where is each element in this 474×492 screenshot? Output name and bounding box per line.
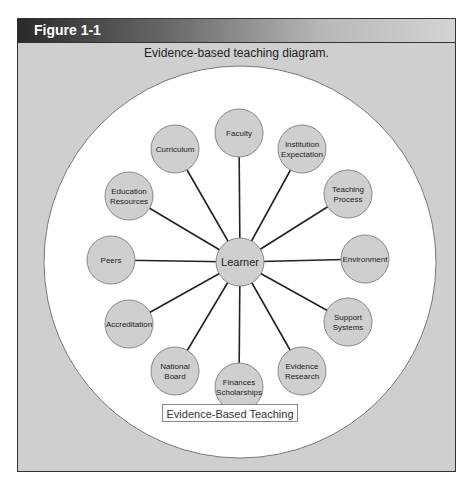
node-learner: Learner <box>216 238 264 286</box>
node-support-systems: SupportSystems <box>324 298 372 346</box>
node-label: Resources <box>110 197 148 206</box>
node-label: Curriculum <box>156 145 195 154</box>
diagram-title-label: Evidence-Based Teaching <box>162 404 298 422</box>
node-label: Systems <box>333 323 364 332</box>
node-evidence-research: EvidenceResearch <box>278 347 326 395</box>
node-label: Support <box>334 313 363 322</box>
node-national-board: NationalBoard <box>151 347 199 395</box>
node-label: Evidence <box>286 362 319 371</box>
node-label: Peers <box>101 256 122 265</box>
node-peers: Peers <box>87 236 135 284</box>
node-label: National <box>160 362 190 371</box>
node-label: Finances <box>223 378 255 387</box>
node-faculty: Faculty <box>215 109 263 157</box>
node-accreditation: Accreditation <box>105 300 153 348</box>
node-label: Process <box>334 195 363 204</box>
node-label: Teaching <box>332 185 364 194</box>
node-label: Faculty <box>226 129 252 138</box>
learner-label: Learner <box>221 256 259 268</box>
node-label: Board <box>164 372 185 381</box>
node-label: Research <box>285 372 319 381</box>
node-education-resources: EducationResources <box>105 172 153 220</box>
node-label: Institution <box>285 140 319 149</box>
node-label: Scholarships <box>216 388 262 397</box>
node-curriculum: Curriculum <box>151 125 199 173</box>
node-label: Environment <box>343 255 389 264</box>
node-institution-expectation: InstitutionExpectation <box>278 125 326 173</box>
node-label: Accreditation <box>106 320 152 329</box>
node-label: Expectation <box>281 150 323 159</box>
node-label: Education <box>111 187 147 196</box>
node-environment: Environment <box>341 235 389 283</box>
node-teaching-process: TeachingProcess <box>324 170 372 218</box>
